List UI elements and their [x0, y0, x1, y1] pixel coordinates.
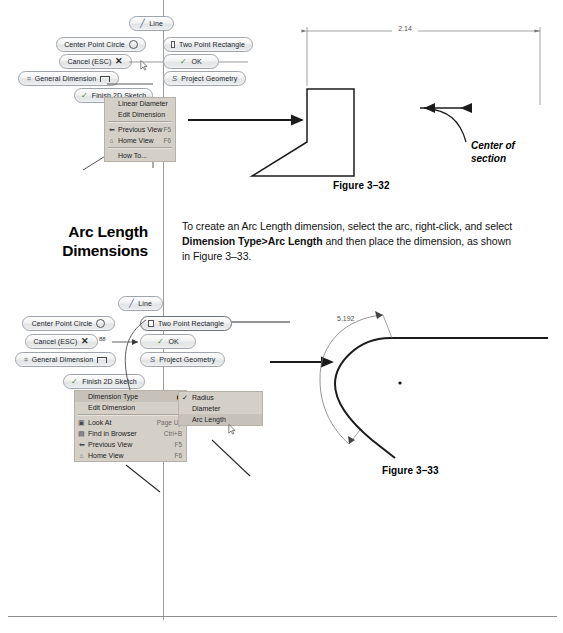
section-heading-line1: Arc Length — [22, 222, 148, 241]
section-heading-line2: Dimensions — [22, 241, 148, 260]
body-text-bold: Dimension Type>Arc Length — [182, 235, 323, 247]
figure-caption-bottom: Figure 3–33 — [382, 465, 439, 476]
section-body-text: To create an Arc Length dimension, selec… — [182, 219, 520, 264]
bottom-figure-drawing — [0, 280, 563, 500]
section-heading: Arc Length Dimensions — [22, 222, 148, 260]
page-canvas: ╱ Line Center Point Circle Two Point Rec… — [0, 0, 563, 633]
top-dimension-value: 2.14 — [392, 25, 418, 32]
center-of-section-line2: section — [471, 153, 515, 166]
top-figure-drawing — [0, 0, 563, 200]
center-of-section-line1: Center of — [471, 140, 515, 153]
body-text-part1: To create an Arc Length dimension, selec… — [182, 220, 512, 232]
center-of-section-label: Center of section — [471, 140, 515, 165]
page-footer-rule — [8, 616, 557, 617]
figure-caption-top: Figure 3–32 — [333, 180, 390, 191]
bottom-dimension-value: 5.192 — [336, 315, 356, 322]
